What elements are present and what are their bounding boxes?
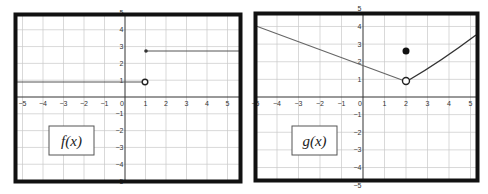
svg-text:4: 4 xyxy=(120,26,124,33)
panel-f: −5−4−3−2−1012345−5−4−3−2−112345 f(x) xyxy=(14,9,242,184)
svg-text:−3: −3 xyxy=(60,100,68,107)
panel-g: −5−4−3−2−1012345−5−4−3−2−112345 g(x) xyxy=(252,5,479,188)
svg-text:3: 3 xyxy=(426,100,430,107)
svg-text:3: 3 xyxy=(185,100,189,107)
svg-text:2: 2 xyxy=(404,100,408,107)
svg-text:−2: −2 xyxy=(116,127,124,134)
f-label: f(x) xyxy=(61,133,82,150)
svg-text:−1: −1 xyxy=(354,111,362,118)
graphs: −5−4−3−2−1012345−5−4−3−2−112345 f(x) −5−… xyxy=(0,0,488,194)
g-open-point xyxy=(403,78,410,85)
svg-text:−3: −3 xyxy=(295,100,303,107)
svg-text:−1: −1 xyxy=(338,100,346,107)
svg-text:−3: −3 xyxy=(116,144,124,151)
svg-text:−5: −5 xyxy=(354,182,362,189)
svg-text:−3: −3 xyxy=(354,146,362,153)
svg-text:−1: −1 xyxy=(101,100,109,107)
svg-text:5: 5 xyxy=(226,100,230,107)
f-open-point xyxy=(142,79,148,85)
svg-text:3: 3 xyxy=(358,41,362,48)
svg-text:4: 4 xyxy=(447,100,451,107)
g-closed-point xyxy=(403,48,410,55)
svg-text:5: 5 xyxy=(469,100,473,107)
svg-text:−4: −4 xyxy=(273,100,281,107)
f-closed-point xyxy=(144,49,148,53)
svg-text:−4: −4 xyxy=(39,100,47,107)
svg-text:−2: −2 xyxy=(354,129,362,136)
svg-text:4: 4 xyxy=(205,100,209,107)
svg-text:−2: −2 xyxy=(316,100,324,107)
svg-text:2: 2 xyxy=(120,60,124,67)
svg-text:−1: −1 xyxy=(116,110,124,117)
svg-text:5: 5 xyxy=(358,5,362,12)
svg-text:−2: −2 xyxy=(80,100,88,107)
g-label: g(x) xyxy=(302,133,326,150)
svg-text:1: 1 xyxy=(358,76,362,83)
svg-text:2: 2 xyxy=(164,100,168,107)
svg-text:1: 1 xyxy=(383,100,387,107)
svg-text:1: 1 xyxy=(120,77,124,84)
svg-text:−4: −4 xyxy=(354,164,362,171)
svg-text:4: 4 xyxy=(358,23,362,30)
svg-text:3: 3 xyxy=(120,43,124,50)
svg-text:1: 1 xyxy=(144,100,148,107)
svg-text:−4: −4 xyxy=(116,161,124,168)
svg-text:0: 0 xyxy=(358,100,362,107)
svg-text:−5: −5 xyxy=(19,100,27,107)
svg-text:0: 0 xyxy=(120,100,124,107)
